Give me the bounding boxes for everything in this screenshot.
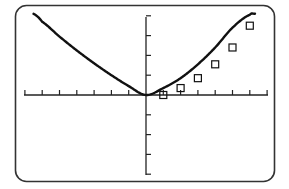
calculator-graph-screen [0, 0, 289, 189]
